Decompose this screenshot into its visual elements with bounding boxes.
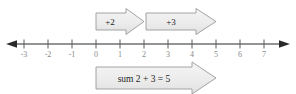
number-line-canvas: +2 +3 -3 -2 [0,0,296,94]
jump-arrow-plus-two-label: +2 [105,17,115,27]
axis-ticks: -3 -2 -1 0 1 2 [21,40,266,60]
jump-arrow-plus-three-label: +3 [166,17,176,27]
tick-label: 5 [214,50,218,59]
tick-label: 3 [166,50,170,59]
tick-1: 1 [118,40,122,60]
tick-3: 3 [166,40,170,60]
jump-arrow-plus-three-shape [146,9,216,35]
tick-label: 1 [118,50,122,59]
sum-arrow-label: sum 2 + 3 = 5 [118,74,171,84]
axis-left-arrowhead [6,40,17,48]
axis-right-arrowhead [279,40,290,48]
jump-arrow-plus-two: +2 [96,9,144,35]
tick-label: -1 [69,50,76,59]
tick-label: 6 [238,50,242,59]
sum-arrow: sum 2 + 3 = 5 [96,62,216,94]
tick-2: 2 [142,40,146,60]
tick-label: 4 [190,50,194,59]
tick-6: 6 [238,40,242,60]
number-line-axis [6,40,290,48]
jump-arrow-plus-two-shape [96,9,144,35]
tick-0: 0 [94,40,98,60]
number-line-diagram: +2 +3 -3 -2 [0,0,296,94]
jump-arrow-plus-three: +3 [146,9,216,35]
tick--1: -1 [69,40,76,60]
tick-label: 7 [262,50,266,59]
tick-label: -3 [21,50,28,59]
tick-4: 4 [190,40,194,60]
tick-7: 7 [262,40,266,60]
tick--2: -2 [45,40,52,60]
tick-label: -2 [45,50,52,59]
tick-label: 0 [94,50,98,59]
tick--3: -3 [21,40,28,60]
tick-5: 5 [214,40,218,60]
tick-label: 2 [142,50,146,59]
